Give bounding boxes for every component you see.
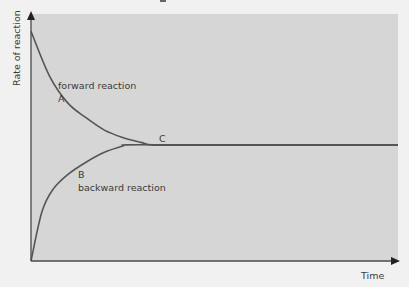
label-b: B — [78, 169, 85, 180]
rate-vs-time-chart: forward reaction A C B backward reaction… — [0, 0, 409, 287]
label-a: A — [58, 93, 65, 104]
backward-reaction-label: backward reaction — [78, 182, 166, 193]
label-c: C — [159, 133, 166, 144]
y-axis-label: Rate of reaction — [11, 10, 22, 86]
x-axis-label: Time — [360, 270, 384, 281]
plot-panel — [31, 14, 398, 261]
forward-reaction-label: forward reaction — [58, 80, 136, 91]
cropped-title-fragment — [160, 0, 166, 2]
